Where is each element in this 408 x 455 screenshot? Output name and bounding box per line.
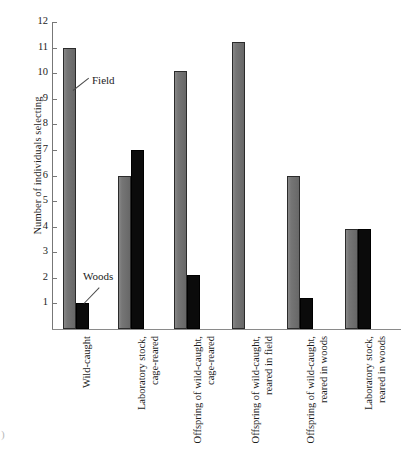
y-tick-label-7: 7 bbox=[26, 144, 48, 155]
bar-woods-0 bbox=[76, 303, 89, 329]
bar-field-4 bbox=[287, 176, 300, 330]
y-tick-label-4: 4 bbox=[26, 221, 48, 232]
x-category-label-0-line-0: Wild-caught bbox=[81, 336, 94, 388]
y-tick-label-10: 10 bbox=[26, 67, 48, 78]
x-category-label-4: Offspring of wild-caught,reared in woods bbox=[305, 336, 330, 443]
x-category-label-5-line-0: Laboratory stock, bbox=[363, 336, 376, 410]
figure-corner-mark: ) bbox=[1, 428, 5, 440]
y-tick-label-8: 8 bbox=[26, 118, 48, 129]
y-tick-label-11: 11 bbox=[26, 42, 48, 53]
y-tick-label-6: 6 bbox=[26, 170, 48, 181]
x-category-label-3: Offspring of wild-caught,reared in field bbox=[250, 336, 275, 443]
bar-chart-figure: Number of individuals selecting 12111098… bbox=[0, 0, 408, 455]
y-tick-label-1: 1 bbox=[26, 297, 48, 308]
bar-field-1 bbox=[118, 176, 131, 330]
bar-field-2 bbox=[174, 71, 187, 329]
y-tick-label-9: 9 bbox=[26, 93, 48, 104]
bar-woods-1 bbox=[131, 150, 144, 329]
x-category-label-5: Laboratory stock,reared in woods bbox=[363, 336, 388, 410]
y-tick-label-5: 5 bbox=[26, 195, 48, 206]
annotation-woods: Woods bbox=[83, 270, 113, 282]
y-tick-label-12: 12 bbox=[26, 16, 48, 27]
x-category-label-0: Wild-caught bbox=[81, 336, 94, 388]
bar-field-5 bbox=[345, 229, 358, 329]
annotation-field: Field bbox=[92, 74, 115, 86]
x-category-label-2: Offspring of wild-caught,cage-reared bbox=[192, 336, 217, 443]
x-category-label-1-line-1: cage-reared bbox=[149, 336, 162, 410]
x-axis-line bbox=[52, 329, 401, 330]
x-category-label-1: Laboratory stock,cage-reared bbox=[136, 336, 161, 410]
x-category-label-1-line-0: Laboratory stock, bbox=[136, 336, 149, 410]
x-category-label-4-line-0: Offspring of wild-caught, bbox=[305, 336, 318, 443]
bar-woods-2 bbox=[187, 275, 200, 329]
x-category-label-2-line-1: cage-reared bbox=[205, 336, 218, 443]
x-category-label-5-line-1: reared in woods bbox=[376, 336, 389, 410]
x-category-label-3-line-0: Offspring of wild-caught, bbox=[250, 336, 263, 443]
y-tick-label-3: 3 bbox=[26, 246, 48, 257]
bar-woods-5 bbox=[358, 229, 371, 329]
x-category-label-3-line-1: reared in field bbox=[263, 336, 276, 443]
bar-woods-4 bbox=[300, 298, 313, 329]
y-tick-label-2: 2 bbox=[26, 272, 48, 283]
plot-area bbox=[52, 22, 401, 329]
bar-field-3 bbox=[232, 42, 245, 329]
x-category-label-4-line-1: reared in woods bbox=[318, 336, 331, 443]
x-category-label-2-line-0: Offspring of wild-caught, bbox=[192, 336, 205, 443]
